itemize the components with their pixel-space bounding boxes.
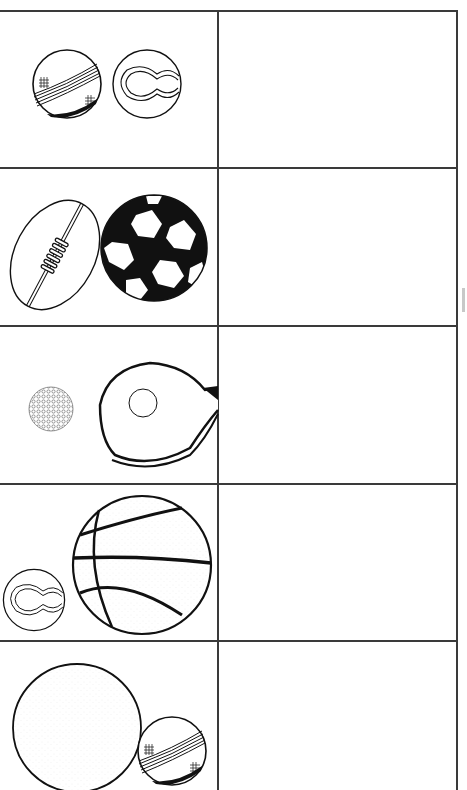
golf-ball-icon: [29, 387, 73, 431]
tennis-ball-icon: [113, 50, 181, 118]
rugby-ball-icon: [0, 185, 118, 325]
plain-ball-icon: [13, 664, 141, 790]
cricket-ball-icon: [138, 717, 206, 785]
basketball-icon: [73, 496, 211, 634]
cricket-ball-icon: [33, 50, 101, 118]
tennis-ball-icon: [3, 569, 64, 630]
illustrations: [0, 0, 467, 790]
table-tennis-paddle-icon: [100, 363, 218, 466]
soccer-ball-icon: [101, 195, 207, 301]
